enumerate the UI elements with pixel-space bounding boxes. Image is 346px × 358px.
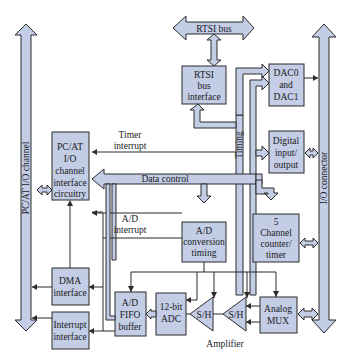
dac-block: DAC0 and DAC1 (269, 64, 304, 106)
svg-text:RTSI: RTSI (194, 70, 214, 80)
analog-mux-block: Analog MUX (260, 297, 297, 333)
svg-text:interface: interface (53, 178, 86, 188)
daq-block-diagram: PC/AT I/O channel I/O connector RTSI bus… (0, 0, 346, 358)
svg-text:circuitry: circuitry (54, 189, 86, 199)
svg-text:Interrupt: Interrupt (53, 320, 87, 330)
pc-at-io-channel-bus: PC/AT I/O channel (15, 24, 37, 331)
svg-text:Digital: Digital (273, 136, 300, 146)
svg-text:MUX: MUX (267, 316, 289, 326)
pcat-interface-block: PC/AT I/O channel interface circuitry (52, 132, 89, 200)
svg-text:and: and (279, 80, 293, 90)
svg-text:bus: bus (197, 81, 211, 91)
interrupt-interface-block: Interrupt interface (52, 312, 89, 349)
dma-interface-block: DMA interface (52, 268, 89, 305)
pc-at-bus-label: PC/AT I/O channel (21, 141, 31, 214)
ad-interrupt-label: A/D (122, 214, 139, 224)
svg-text:Analog: Analog (264, 304, 292, 314)
svg-text:DAC0: DAC0 (274, 68, 299, 78)
svg-text:interface: interface (53, 332, 86, 342)
svg-text:timer: timer (266, 250, 287, 260)
svg-text:channel: channel (55, 166, 85, 176)
svg-text:interrupt: interrupt (114, 141, 147, 151)
counter-timer-block: 5 Channel counter/ timer (253, 214, 299, 262)
svg-text:ADC: ADC (161, 314, 181, 324)
svg-text:12-bit: 12-bit (160, 302, 183, 312)
svg-text:FIFO: FIFO (120, 310, 141, 320)
io-connector-label: I/O connector (319, 151, 329, 204)
svg-text:S/H: S/H (229, 310, 244, 320)
svg-text:counter/: counter/ (260, 239, 291, 249)
svg-text:buffer: buffer (118, 322, 142, 332)
digital-io-block: Digital input/ output (269, 131, 304, 173)
io-connector-bus: I/O connector (312, 24, 336, 333)
rtsi-bus-label: RTSI bus (196, 24, 232, 34)
svg-text:I/O: I/O (64, 154, 77, 164)
amplifier-label: Amplifier (206, 339, 244, 349)
svg-text:DMA: DMA (59, 276, 81, 286)
svg-text:PC/AT: PC/AT (57, 142, 83, 152)
svg-text:DAC1: DAC1 (274, 92, 299, 102)
ad-conversion-timing-block: A/D conversion timing (182, 222, 226, 262)
svg-text:input/: input/ (275, 148, 298, 158)
timer-interrupt-label: Timer (119, 130, 143, 140)
sample-hold-2: S/H (223, 297, 246, 331)
data-control-bus: Data control (92, 169, 256, 189)
svg-text:interrupt: interrupt (114, 225, 147, 235)
sample-hold-1: S/H (190, 297, 213, 331)
svg-text:A/D: A/D (196, 226, 213, 236)
svg-text:output: output (274, 160, 299, 170)
svg-text:conversion: conversion (183, 237, 225, 247)
rtsi-bus-interface-block: RTSI bus interface (182, 66, 226, 104)
svg-text:interface: interface (187, 92, 220, 102)
svg-text:timing: timing (192, 248, 217, 258)
timing-bus: Timing (234, 115, 244, 295)
svg-text:interface: interface (53, 288, 86, 298)
svg-text:Data control: Data control (141, 174, 189, 184)
svg-text:Channel: Channel (260, 228, 292, 238)
svg-text:A/D: A/D (122, 298, 139, 308)
ad-fifo-buffer-block: A/D FIFO buffer (115, 292, 146, 336)
adc-block: 12-bit ADC (156, 293, 186, 335)
svg-text:5: 5 (274, 217, 279, 227)
svg-text:S/H: S/H (197, 310, 212, 320)
svg-text:Timing: Timing (234, 131, 244, 159)
